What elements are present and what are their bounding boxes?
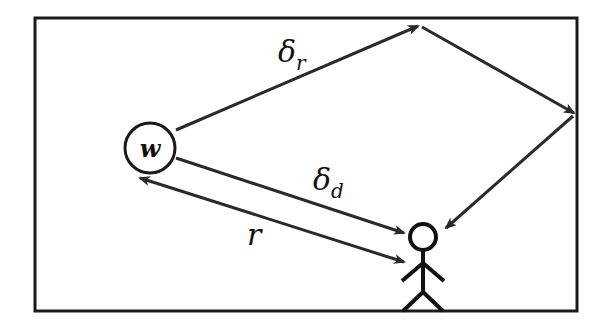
room-boundary (35, 18, 577, 311)
listener-figure (402, 224, 444, 311)
reflected-segment-3-arrow (446, 116, 573, 228)
listener-left-leg (403, 292, 423, 311)
direct-path-arrow (176, 158, 404, 233)
source-label: w (140, 134, 162, 163)
listener-left-arm (402, 263, 423, 281)
room-diagram: δr δd r w (0, 0, 611, 331)
reflected-segment-1-arrow (176, 26, 418, 130)
reflected-path-label: δr (278, 34, 307, 75)
distance-label: r (247, 217, 263, 252)
reflected-segment-2-arrow (422, 27, 574, 113)
direct-path-label: δd (313, 162, 344, 203)
listener-right-arm (423, 263, 444, 281)
source-node: w (125, 123, 175, 173)
reflected-path: δr (176, 26, 574, 228)
listener-right-leg (423, 292, 443, 311)
direct-path: δd (176, 158, 404, 233)
listener-head-icon (410, 224, 436, 250)
